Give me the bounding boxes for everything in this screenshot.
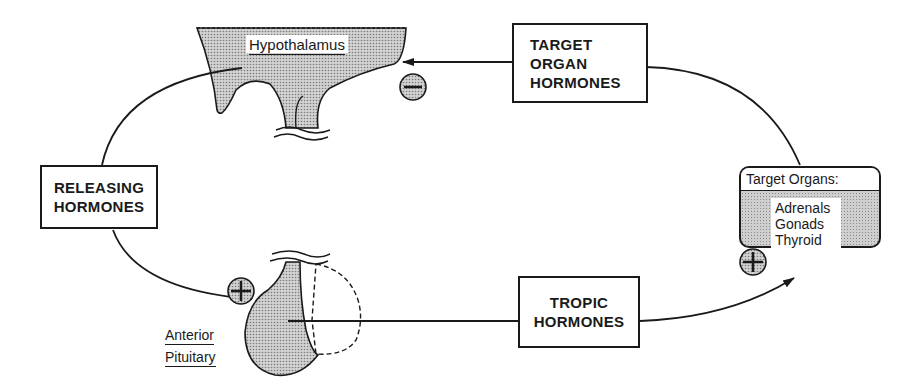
box-line: RELEASING [54, 178, 144, 197]
target-organs-list: Adrenals Gonads Thyroid [771, 198, 841, 250]
organ-item: Thyroid [775, 232, 837, 248]
box-line: HORMONES [530, 73, 646, 92]
organ-item: Gonads [775, 216, 837, 232]
releasing-hormones-box: RELEASING HORMONES [40, 165, 158, 229]
box-line: HORMONES [54, 197, 145, 216]
anterior-pituitary-label: Anterior Pituitary [165, 324, 216, 368]
plus-sign-icon [228, 278, 254, 304]
target-organs-box: Target Organs: Adrenals Gonads Thyroid [739, 166, 881, 248]
plus-sign-icon [740, 249, 766, 275]
minus-sign-icon [400, 74, 426, 100]
organ-item: Adrenals [775, 200, 837, 216]
target-organs-title: Target Organs: [741, 168, 879, 191]
label-line: Pituitary [165, 349, 216, 367]
target-organ-hormones-box: TARGET ORGAN HORMONES [512, 23, 648, 103]
box-line: HORMONES [534, 312, 625, 331]
hypothalamus-text: Hypothalamus [249, 36, 345, 55]
tropic-hormones-box: TROPIC HORMONES [518, 276, 640, 348]
box-line: TROPIC [550, 293, 608, 312]
label-line: Anterior [165, 327, 214, 345]
cycle-arrows [102, 62, 800, 321]
box-line: TARGET [530, 35, 646, 54]
anterior-pituitary-shape [245, 251, 361, 375]
box-line: ORGAN [530, 54, 646, 73]
hypothalamus-label: Hypothalamus [246, 35, 348, 53]
